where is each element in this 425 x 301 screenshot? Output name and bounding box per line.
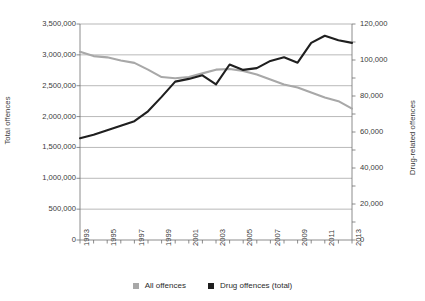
legend-item-drug-offences[interactable]: Drug offences (total) [208,281,292,290]
axis-lines [80,24,352,240]
gridlines [80,24,352,240]
series-line-all-offences [80,52,352,109]
legend-label: Drug offences (total) [220,281,292,290]
series-line-drug-offences [80,36,352,139]
legend-swatch-icon [133,283,139,289]
axis-tick-marks [77,24,356,244]
legend-item-all-offences[interactable]: All offences [133,281,186,290]
plot-area [0,0,425,301]
legend-label: All offences [145,281,186,290]
chart-container: Total offences Drug-related offences 050… [0,0,425,301]
chart-legend: All offencesDrug offences (total) [0,281,425,290]
data-series [80,36,352,139]
legend-swatch-icon [208,283,214,289]
